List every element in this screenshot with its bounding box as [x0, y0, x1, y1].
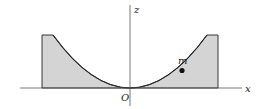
origin-label: O [121, 92, 129, 103]
x-axis-label: x [245, 83, 251, 94]
mass-point [179, 68, 184, 73]
bowl-diagram: z x O m [0, 0, 262, 109]
mass-label: m [178, 55, 187, 66]
z-axis-label: z [133, 4, 140, 15]
